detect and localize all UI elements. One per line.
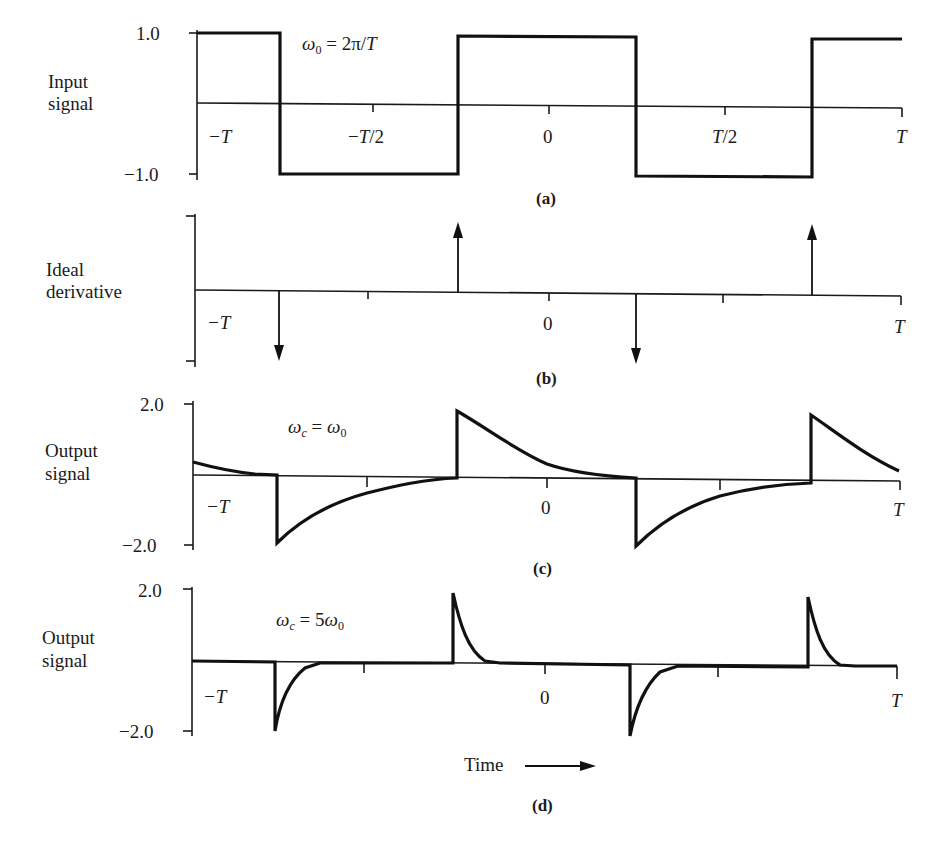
panel-a-xtick-label-half: T/2	[712, 126, 737, 147]
panel-d-xtick-label-negT: −T	[203, 686, 228, 707]
panel-b-ylabel-line1: Ideal	[46, 259, 84, 280]
panel-b-xtick-label-zero: 0	[543, 313, 553, 334]
impulse-up-1	[453, 222, 463, 292]
panel-c-annotation: ωc = ω0	[288, 416, 346, 440]
panel-d-annotation: ωc = 5ω0	[276, 609, 344, 633]
time-axis-label: Time	[464, 754, 503, 775]
impulse-down-2	[631, 294, 641, 364]
panel-a-ytick-bottom: −1.0	[124, 164, 158, 185]
panel-d-ylabel-line1: Output	[42, 627, 96, 648]
panel-d-xtick-label-zero: 0	[540, 687, 550, 708]
impulse-down-1	[274, 291, 284, 361]
panel-c-xtick-label-negT: −T	[206, 496, 231, 517]
panel-d-output-signal: Output signal 2.0 −2.0 ωc = 5ω0 −T 0 T T…	[42, 580, 903, 815]
panel-c-xtick-label-zero: 0	[541, 497, 551, 518]
panel-d-caption: (d)	[532, 796, 553, 815]
panel-a-caption: (a)	[536, 189, 556, 208]
panel-a-ylabel-line2: signal	[48, 93, 93, 114]
panel-c-output-signal: Output signal 2.0 −2.0 ωc = ω0 −T 0 T (c…	[45, 394, 905, 578]
panel-c-xtick-label-T: T	[893, 499, 905, 520]
panel-b-ideal-derivative: Ideal derivative −T 0 T (b)	[46, 214, 906, 388]
panel-d-ylabel-line2: signal	[42, 650, 87, 671]
panel-b-x-axis	[195, 290, 901, 296]
right-arrow-icon	[525, 761, 596, 771]
panel-b-caption: (b)	[536, 369, 557, 388]
panel-a-input-signal: Input signal 1.0 −1.0 ω0 = 2π/T −T −T/2 …	[48, 23, 908, 208]
panel-c-ylabel-line2: signal	[45, 463, 90, 484]
panel-d-ytick-bottom: −2.0	[119, 721, 153, 742]
panel-a-ylabel-line1: Input	[48, 71, 89, 92]
panel-b-xtick-label-T: T	[894, 316, 906, 337]
high-pass-filter-figure: Input signal 1.0 −1.0 ω0 = 2π/T −T −T/2 …	[0, 0, 951, 849]
panel-d-ytick-top: 2.0	[138, 580, 162, 601]
panel-c-ytick-top: 2.0	[140, 394, 164, 415]
panel-a-xtick-label-zero: 0	[543, 126, 553, 147]
panel-a-xtick-label-T: T	[896, 126, 908, 147]
panel-c-ylabel-line1: Output	[45, 440, 99, 461]
panel-c-ytick-bottom: −2.0	[122, 535, 156, 556]
panel-d-xtick-label-T: T	[891, 690, 903, 711]
panel-a-xtick-label-neg-half: −T/2	[348, 126, 384, 147]
panel-b-xtick-label-negT: −T	[207, 312, 232, 333]
panel-c-caption: (c)	[533, 559, 552, 578]
panel-a-ytick-top: 1.0	[136, 23, 160, 44]
panel-a-xtick-label-negT: −T	[208, 126, 233, 147]
impulse-up-2	[807, 224, 817, 295]
panel-b-ylabel-line2: derivative	[46, 281, 122, 302]
panel-a-annotation: ω0 = 2π/T	[302, 33, 378, 57]
